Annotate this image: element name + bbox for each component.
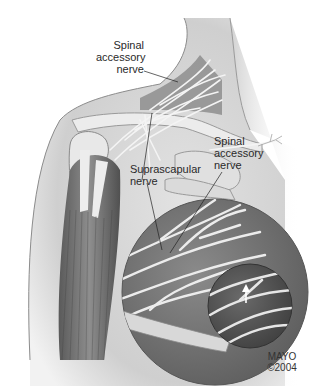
label-suprascapular-nerve: Suprascapular nerve (130, 163, 210, 187)
label-line: Spinal (214, 135, 284, 147)
credit-year: ©2004 (262, 362, 302, 373)
label-line: accessory (214, 147, 284, 159)
credit-name: MAYO (262, 351, 302, 362)
label-line: nerve (214, 159, 284, 171)
magnified-view-small (208, 264, 292, 348)
label-line: Spinal (96, 39, 144, 51)
label-line: nerve (130, 175, 210, 187)
shoulder-nerve-illustration (0, 0, 310, 386)
label-line: nerve (96, 63, 144, 75)
label-spinal-accessory-nerve-top: Spinal accessory nerve (96, 39, 144, 75)
label-spinal-accessory-nerve-right: Spinal accessory nerve (214, 135, 284, 171)
copyright-credit: MAYO ©2004 (262, 351, 302, 373)
label-line: Suprascapular (130, 163, 210, 175)
label-line: accessory (96, 51, 144, 63)
